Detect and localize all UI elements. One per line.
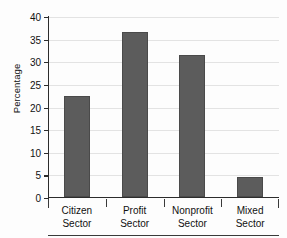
gridline (48, 40, 279, 41)
category-label: CitizenSector (48, 204, 106, 230)
category-label: MixedSector (221, 204, 279, 230)
y-tick-label: 20 (30, 102, 41, 113)
y-tick (44, 153, 49, 154)
y-tick (44, 85, 49, 86)
y-tick-label: 15 (30, 125, 41, 136)
bar (122, 32, 148, 197)
plot-area: 0510152025303540 (48, 17, 279, 198)
y-tick (44, 17, 49, 18)
y-tick-label: 30 (30, 57, 41, 68)
y-tick-label: 5 (35, 170, 41, 181)
plot-inner: 0510152025303540 (48, 17, 279, 198)
category-label-line: Nonprofit (164, 204, 222, 217)
gridline (48, 17, 279, 18)
y-tick-label: 25 (30, 79, 41, 90)
y-tick (44, 40, 49, 41)
category-label-line: Mixed (221, 204, 279, 217)
x-axis-line (48, 197, 279, 198)
category-label-line: Sector (164, 217, 222, 230)
y-axis-title: Percentage (11, 39, 22, 139)
y-tick-label: 35 (30, 34, 41, 45)
category-label-line: Sector (221, 217, 279, 230)
y-tick (44, 130, 49, 131)
gridline (48, 62, 279, 63)
category-label-line: Sector (48, 217, 106, 230)
gridline (48, 85, 279, 86)
category-label-line: Profit (106, 204, 164, 217)
y-tick (44, 62, 49, 63)
category-label-line: Citizen (48, 204, 106, 217)
y-tick (44, 108, 49, 109)
category-label: ProfitSector (106, 204, 164, 230)
y-tick-label: 40 (30, 12, 41, 23)
y-tick-label: 0 (35, 193, 41, 204)
y-tick-label: 10 (30, 147, 41, 158)
category-label: NonprofitSector (164, 204, 222, 230)
bar-chart-figure: Percentage 0510152025303540 CitizenSecto… (0, 0, 287, 238)
y-tick (44, 175, 49, 176)
category-label-line: Sector (106, 217, 164, 230)
bar (237, 177, 263, 197)
category-label-band: CitizenSectorProfitSectorNonprofitSector… (48, 199, 279, 236)
bar (179, 55, 205, 198)
bar (64, 96, 90, 198)
